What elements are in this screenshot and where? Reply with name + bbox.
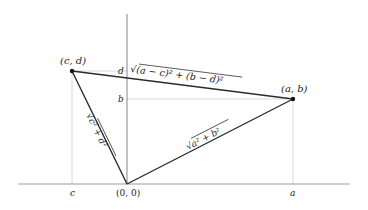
point-cd [70,69,74,73]
distance-diagram: (c, d) (a, b) (0, 0) c a d b √(a − c)² +… [0,0,368,210]
label-point-ab: (a, b) [281,83,308,94]
label-point-cd: (c, d) [60,55,86,66]
label-y-d: d [118,66,124,76]
label-y-b: b [118,94,124,104]
label-x-c: c [70,188,75,198]
label-x-a: a [290,188,295,198]
segment-origin-ab [127,99,293,184]
label-origin: (0, 0) [116,188,140,198]
label-distance-cd-ab: √(a − c)² + (b − d)² [130,63,224,86]
point-ab [291,97,295,101]
diagram-canvas: (c, d) (a, b) (0, 0) c a d b √(a − c)² +… [0,0,368,210]
label-distance-origin-cd: √c² + d² [84,111,109,149]
